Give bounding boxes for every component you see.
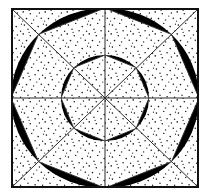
rosette-diagram — [0, 0, 210, 196]
figure-canvas: Eight-fold rosette in square frame Stipp… — [0, 0, 210, 196]
diameter-lines — [12, 9, 198, 187]
